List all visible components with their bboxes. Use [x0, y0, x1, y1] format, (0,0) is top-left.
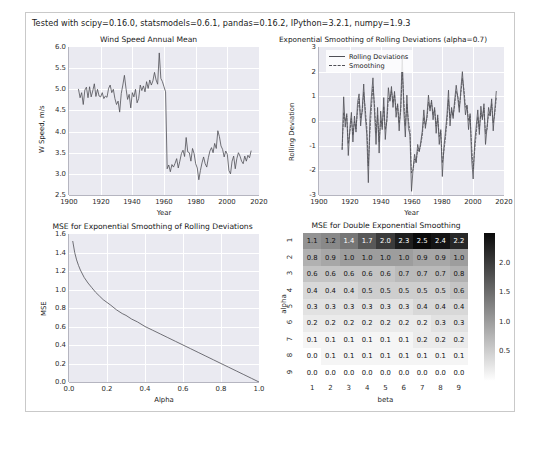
heatmap-cell: 1.1: [303, 233, 321, 249]
heatmap-grid: 1.11.21.41.72.02.32.52.42.20.80.91.01.01…: [303, 233, 468, 381]
heatmap-xtick: 9: [449, 384, 469, 392]
ytick-label: 2: [291, 68, 316, 76]
xtick-label: 1940: [116, 198, 148, 206]
heatmap-cell: 0.7: [395, 266, 413, 282]
ytick-label: 1.2: [41, 267, 66, 275]
heatmap-cell: 2.2: [450, 233, 468, 249]
heatmap-cell: 0.4: [431, 299, 449, 315]
heatmap-cell: 0.0: [395, 365, 413, 381]
heatmap-cell: 0.1: [395, 332, 413, 348]
xtick-label: 1960: [148, 198, 180, 206]
heatmap-cell: 1.2: [321, 233, 339, 249]
series-line: [342, 54, 496, 191]
ytick-label: 4.0: [41, 128, 66, 136]
legend-entry-rolling-deviations: Rolling Deviations: [329, 52, 408, 61]
heatmap-cell: 0.3: [376, 299, 394, 315]
heatmap-cell: 0.3: [395, 299, 413, 315]
heatmap-cell: 2.5: [413, 233, 431, 249]
heatmap-cell: 0.6: [450, 282, 468, 298]
heatmap-cell: 0.1: [358, 348, 376, 364]
heatmap-cell: 1.0: [376, 249, 394, 265]
heatmap-cell: 0.1: [321, 332, 339, 348]
colorbar-tick-label: 1.5: [499, 288, 510, 296]
heatmap-ytick: 3: [286, 264, 294, 282]
ax3-xlabel: beta: [303, 396, 468, 404]
heatmap-cell: 0.1: [431, 348, 449, 364]
heatmap-ytick: 6: [286, 313, 294, 331]
ytick-label: 4.5: [41, 106, 66, 114]
colorbar-tick-label: 0.5: [499, 347, 510, 355]
ax2-xlabel: Alpha: [69, 396, 259, 404]
heatmap-cell: 0.2: [395, 315, 413, 331]
heatmap-ytick: 2: [286, 248, 294, 266]
ytick-label: 2.5: [41, 191, 66, 199]
series-line: [79, 53, 252, 180]
xtick-label: 2000: [211, 198, 243, 206]
heatmap-xtick: 4: [357, 384, 377, 392]
heatmap-cell: 0.4: [340, 282, 358, 298]
ytick-label: 0: [291, 117, 316, 125]
heatmap-cell: 0.1: [321, 348, 339, 364]
xtick-label: 0.8: [205, 385, 237, 393]
heatmap-cell: 0.5: [431, 282, 449, 298]
xtick-label: 1920: [334, 198, 366, 206]
xtick-label: 1980: [426, 198, 458, 206]
heatmap-cell: 0.5: [413, 282, 431, 298]
ax1-ylabel: Rolling Deviation: [288, 103, 296, 161]
series-line: [73, 241, 259, 382]
xtick-label: 1960: [396, 198, 428, 206]
heatmap-cell: 0.0: [303, 348, 321, 364]
ytick-label: 0.2: [41, 360, 66, 368]
heatmap-cell: 0.2: [431, 332, 449, 348]
heatmap-cell: 0.0: [376, 365, 394, 381]
heatmap-xtick: 3: [339, 384, 359, 392]
chart-mse-double-exponential-smoothing: MSE for Double Exponential Smoothing 1.1…: [271, 220, 516, 410]
ax1-legend: Rolling Deviations Smoothing: [326, 50, 412, 72]
ytick-label: 5.5: [41, 64, 66, 72]
heatmap-cell: 0.1: [450, 348, 468, 364]
heatmap-cell: 0.1: [340, 348, 358, 364]
heatmap-cell: 0.1: [376, 332, 394, 348]
heatmap-cell: 1.0: [450, 249, 468, 265]
heatmap-cell: 0.6: [340, 266, 358, 282]
heatmap-cell: 0.0: [303, 365, 321, 381]
heatmap-cell: 2.4: [431, 233, 449, 249]
series-line: [342, 72, 496, 173]
heatmap-cell: 0.0: [413, 365, 431, 381]
ytick-label: 3.5: [41, 149, 66, 157]
xtick-label: 1940: [365, 198, 397, 206]
heatmap-cell: 1.0: [340, 249, 358, 265]
axis-spine-bottom: [69, 382, 259, 383]
legend-label: Rolling Deviations: [349, 53, 408, 61]
xtick-label: 2000: [457, 198, 489, 206]
heatmap-cell: 2.0: [376, 233, 394, 249]
colorbar-tick-label: 2.0: [499, 259, 510, 267]
heatmap-cell: 0.2: [450, 332, 468, 348]
ytick-label: -3: [291, 191, 316, 199]
heatmap-cell: 0.6: [358, 266, 376, 282]
ytick-label: 6.0: [41, 43, 66, 51]
xtick-label: 0.6: [167, 385, 199, 393]
legend-key-solid-icon: [329, 56, 345, 57]
ax2-plot-area: [69, 234, 259, 382]
xtick-label: 0.4: [129, 385, 161, 393]
heatmap-cell: 0.5: [376, 282, 394, 298]
ytick-label: 0.0: [41, 378, 66, 386]
heatmap-cell: 0.0: [431, 365, 449, 381]
ytick-label: -1: [291, 142, 316, 150]
heatmap-ytick: 9: [286, 363, 294, 381]
ytick-label: -2: [291, 166, 316, 174]
ytick-label: 1.0: [41, 286, 66, 294]
xtick-label: 1980: [180, 198, 212, 206]
xtick-label: 0.2: [91, 385, 123, 393]
heatmap-cell: 0.3: [321, 299, 339, 315]
ytick-label: 0.8: [41, 304, 66, 312]
ytick-label: 0.4: [41, 341, 66, 349]
ytick-label: 1.6: [41, 230, 66, 238]
heatmap-cell: 0.0: [358, 365, 376, 381]
chart-exponential-smoothing: Exponential Smoothing of Rolling Deviati…: [271, 33, 516, 218]
heatmap-cell: 0.9: [321, 249, 339, 265]
heatmap-cell: 0.3: [431, 315, 449, 331]
ax1-xlabel: Year: [319, 209, 504, 217]
ytick-label: 1: [291, 92, 316, 100]
